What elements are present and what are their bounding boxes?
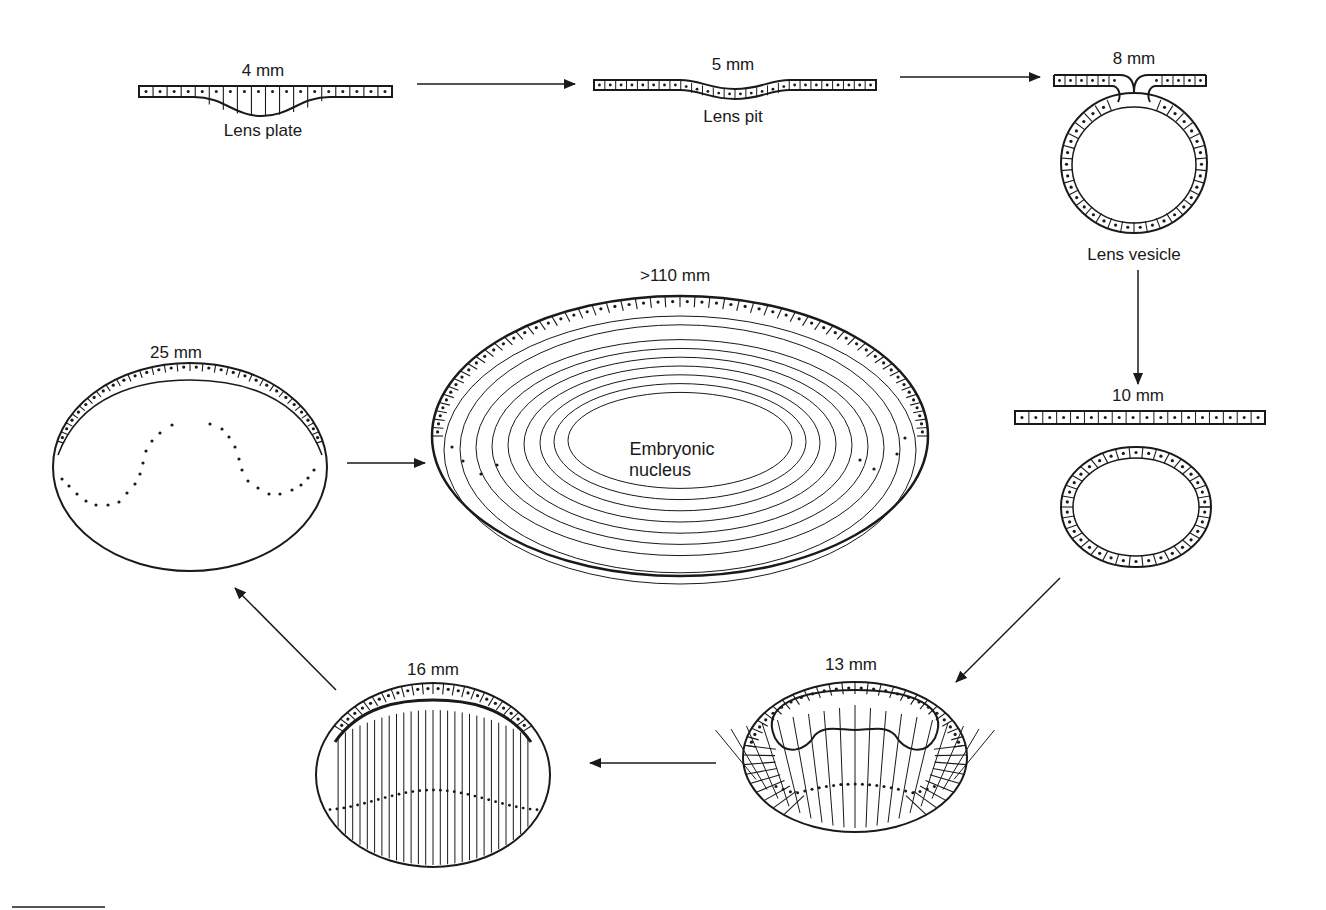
- lens-plate-label: Lens plate: [224, 122, 302, 139]
- stage-4mm-size-label: 4 mm: [242, 62, 285, 79]
- stage-10mm-size-label: 10 mm: [1112, 387, 1164, 404]
- lens-vesicle-label: Lens vesicle: [1087, 246, 1181, 263]
- flow-arrows: [235, 77, 1138, 763]
- stage-25mm-size-label: 25 mm: [150, 344, 202, 361]
- arrow-16-to-25: [235, 588, 336, 690]
- stage-16mm: [316, 683, 550, 867]
- stage-8mm-size-label: 8 mm: [1113, 50, 1156, 67]
- stage-4mm-lens-plate: [139, 86, 392, 116]
- stage-13mm-size-label: 13 mm: [825, 656, 877, 673]
- stage-8mm-lens-vesicle: [1054, 75, 1207, 233]
- lens-pit-label: Lens pit: [703, 108, 763, 125]
- stage-5mm-lens-pit: [594, 80, 876, 99]
- stage-13mm: [716, 682, 995, 832]
- stage-10mm: [1015, 411, 1265, 567]
- embryonic-nucleus-label-line1: Embryonic: [629, 440, 714, 458]
- stage-16mm-size-label: 16 mm: [407, 661, 459, 678]
- stage-110mm-size-label: >110 mm: [640, 267, 710, 284]
- stage-25mm: [53, 363, 327, 571]
- stage-5mm-size-label: 5 mm: [712, 56, 755, 73]
- embryonic-nucleus-label-line2: nucleus: [629, 461, 691, 479]
- arrow-10-to-13: [956, 578, 1060, 682]
